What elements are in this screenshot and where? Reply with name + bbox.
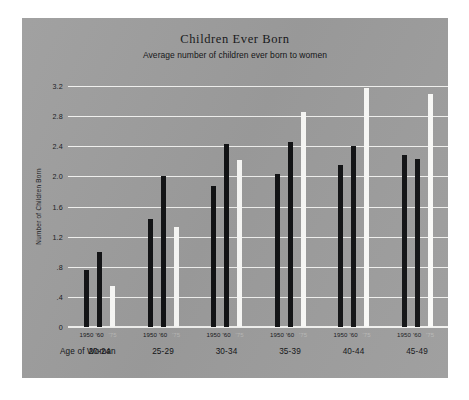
- chart-card: Children Ever Born Average number of chi…: [22, 18, 448, 378]
- bar: [211, 186, 216, 327]
- x-tick-year: '60: [95, 331, 103, 338]
- x-tick-year: 1950: [207, 331, 221, 338]
- gridline: 2.8: [68, 116, 448, 117]
- gridline: 1.2: [68, 237, 448, 238]
- bar: [174, 227, 179, 327]
- x-tick-year: '75: [108, 331, 116, 338]
- y-tick-label: 2.4: [52, 142, 63, 151]
- y-tick-label: 3.2: [52, 82, 63, 91]
- x-group-label: 35-39: [279, 347, 301, 356]
- x-tick-year: '75: [172, 331, 180, 338]
- y-tick-label: .4: [57, 292, 63, 301]
- chart-subtitle: Average number of children ever born to …: [22, 49, 448, 61]
- x-tick-year: 1950: [143, 331, 157, 338]
- gridline: 2.0: [68, 176, 448, 177]
- bar: [224, 144, 229, 327]
- y-tick-label: .8: [57, 262, 63, 271]
- x-axis-title: Age of Woman: [60, 347, 116, 356]
- bar: [288, 142, 293, 327]
- x-tick-year: '60: [413, 331, 421, 338]
- y-tick-label: 1.6: [52, 202, 63, 211]
- x-tick-year: '75: [362, 331, 370, 338]
- bar: [161, 176, 166, 327]
- bar: [110, 286, 115, 327]
- title-block: Children Ever Born Average number of chi…: [22, 32, 448, 61]
- y-tick-label: 2.0: [52, 172, 63, 181]
- x-tick-year: 1950: [397, 331, 411, 338]
- x-tick-year: '60: [159, 331, 167, 338]
- x-group-label: 25-29: [152, 347, 174, 356]
- x-tick-year: '75: [426, 331, 434, 338]
- x-group-label: 45-49: [406, 347, 428, 356]
- bar: [338, 165, 343, 327]
- gridline: 2.4: [68, 146, 448, 147]
- x-tick-year: '60: [349, 331, 357, 338]
- x-tick-year: '60: [222, 331, 230, 338]
- bar: [415, 159, 420, 327]
- bar: [84, 270, 89, 327]
- x-tick-year: 1950: [334, 331, 348, 338]
- gridline: 3.2: [68, 86, 448, 87]
- bar: [351, 146, 356, 327]
- plot-area: 3.22.82.42.01.61.2.8.40: [68, 86, 448, 327]
- gridline: 0: [68, 327, 448, 328]
- gridline: 1.6: [68, 207, 448, 208]
- y-tick-label: 1.2: [52, 232, 63, 241]
- bar: [301, 112, 306, 327]
- bar: [237, 160, 242, 327]
- bar: [97, 252, 102, 327]
- page-title: Children Ever Born: [22, 32, 448, 46]
- bar: [428, 94, 433, 327]
- x-tick-year: '60: [286, 331, 294, 338]
- x-axis-baseline: [68, 326, 448, 327]
- x-tick-year: 1950: [80, 331, 94, 338]
- x-tick-year: '75: [299, 331, 307, 338]
- x-group-label: 30-34: [216, 347, 238, 356]
- bar: [148, 219, 153, 327]
- bar: [275, 174, 280, 327]
- y-axis-title: Number of Children Born: [34, 86, 44, 327]
- x-tick-year: '75: [235, 331, 243, 338]
- gridline: .8: [68, 267, 448, 268]
- y-tick-label: 2.8: [52, 112, 63, 121]
- x-group-label: 40-44: [343, 347, 365, 356]
- gridline: .4: [68, 297, 448, 298]
- bar: [364, 88, 369, 327]
- bar: [402, 155, 407, 327]
- y-tick-label: 0: [59, 323, 63, 332]
- x-tick-year: 1950: [270, 331, 284, 338]
- chart-page: Children Ever Born Average number of chi…: [0, 0, 469, 400]
